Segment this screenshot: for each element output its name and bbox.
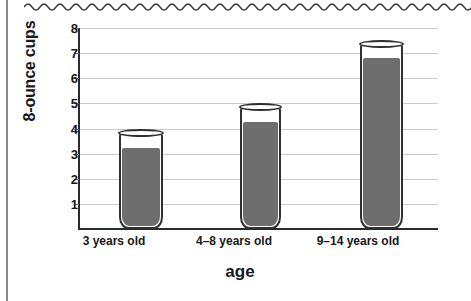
gridline-8 (80, 28, 438, 29)
y-axis-tick-label: 8 (52, 21, 78, 36)
vertical-rule-icon (6, 0, 8, 301)
cup-rim (239, 103, 282, 111)
bar-cup-4-8-years-old[interactable] (240, 106, 281, 229)
y-axis-title: 8-ounce cups (21, 1, 39, 141)
bar-cup-9-14-years-old[interactable] (360, 43, 403, 229)
wavy-torn-page-edge-icon (24, 0, 471, 14)
x-axis-tick-label-4-8-years-old: 4–8 years old (178, 234, 290, 248)
bar-cup-3-years-old[interactable] (119, 132, 163, 229)
y-axis-tick-label: 6 (52, 71, 78, 86)
chart-page: 8-ounce cups (0, 0, 471, 301)
x-axis-tick-label-3-years-old: 3 years old (60, 234, 168, 248)
x-axis-title: age (160, 262, 320, 282)
y-axis-tick-label: 4 (52, 122, 78, 137)
y-axis-tick-label: 1 (52, 197, 78, 212)
cup-rim (359, 40, 404, 48)
plot-area (78, 28, 438, 229)
x-axis-tick-label-9-14-years-old: 9–14 years old (298, 234, 418, 248)
cup-fill (363, 58, 400, 226)
cup-rim (118, 129, 164, 137)
cup-fill (122, 148, 160, 226)
y-axis-tick-label: 2 (52, 172, 78, 187)
y-axis-tick-label: 3 (52, 147, 78, 162)
y-axis-tick-label: 7 (52, 46, 78, 61)
y-axis-tick-label: 5 (52, 96, 78, 111)
cup-fill (243, 122, 278, 226)
